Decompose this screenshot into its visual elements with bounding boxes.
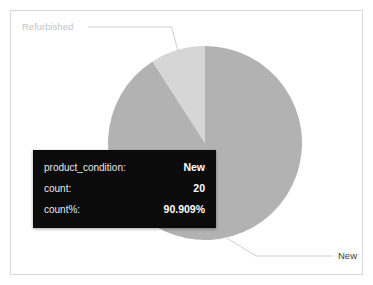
leader-line-refurbished <box>88 27 178 50</box>
tooltip-row: count%: 90.909% <box>44 199 205 220</box>
pie-chart-visualization: Refurbished New product_condition: New c… <box>0 0 373 285</box>
tooltip-row: count: 20 <box>44 178 205 199</box>
pie-label-new: New <box>338 250 357 261</box>
tooltip-value: 90.909% <box>164 199 205 220</box>
tooltip-value: 20 <box>193 178 205 199</box>
chart-canvas: Refurbished New <box>0 0 373 285</box>
tooltip-value: New <box>183 157 205 178</box>
tooltip-key: product_condition: <box>44 157 134 178</box>
tooltip-key: count%: <box>44 199 88 220</box>
tooltip-row: product_condition: New <box>44 157 205 178</box>
tooltip-key: count: <box>44 178 79 199</box>
leader-line-new <box>226 238 333 256</box>
chart-tooltip: product_condition: New count: 20 count%:… <box>33 150 216 228</box>
pie-label-refurbished: Refurbished <box>22 21 73 32</box>
